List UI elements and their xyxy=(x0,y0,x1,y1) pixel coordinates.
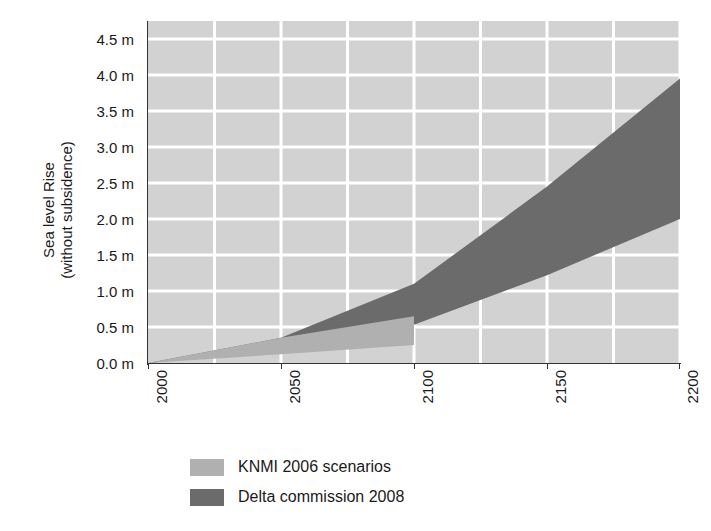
x-axis-tick-label: 2200 xyxy=(685,370,700,403)
y-axis-tick-label: 0.0 m xyxy=(96,356,134,371)
legend-item-label: Delta commission 2008 xyxy=(238,488,404,506)
x-axis-tick-mark xyxy=(414,364,415,369)
x-axis-tick-labels: 20002050210021502200 xyxy=(148,364,680,434)
y-axis-tick-label: 0.5 m xyxy=(96,320,134,335)
y-axis-tick-label: 1.0 m xyxy=(96,284,134,299)
x-axis-tick-mark xyxy=(547,364,548,369)
x-axis-tick-mark xyxy=(148,364,149,369)
sea-level-rise-chart: Sea level Rise (without subsidence) 0.0 … xyxy=(0,0,711,531)
x-axis-tick-label: 2000 xyxy=(154,370,169,403)
y-axis-tick-label: 3.0 m xyxy=(96,140,134,155)
y-axis-spine xyxy=(147,21,148,365)
legend-color-swatch xyxy=(190,459,224,476)
x-axis-tick-mark xyxy=(281,364,282,369)
y-axis-tick-labels: 0.0 m0.5 m1.0 m1.5 m2.0 m2.5 m3.0 m3.5 m… xyxy=(60,21,140,363)
y-axis-tick-label: 1.5 m xyxy=(96,248,134,263)
y-axis-tick-label: 3.5 m xyxy=(96,104,134,119)
y-axis-tick-label: 2.0 m xyxy=(96,212,134,227)
plot-area xyxy=(148,21,680,363)
chart-legend: KNMI 2006 scenariosDelta commission 2008 xyxy=(190,452,590,512)
legend-color-swatch xyxy=(190,489,224,506)
y-axis-title-line1: Sea level Rise xyxy=(40,60,58,360)
y-axis-tick-label: 2.5 m xyxy=(96,176,134,191)
plot-canvas xyxy=(148,21,680,363)
x-axis-tick-mark xyxy=(679,364,680,369)
x-axis-tick-label: 2050 xyxy=(287,370,302,403)
legend-item: Delta commission 2008 xyxy=(190,482,590,512)
x-axis-tick-label: 2100 xyxy=(420,370,435,403)
legend-item-label: KNMI 2006 scenarios xyxy=(238,458,391,476)
y-axis-tick-label: 4.5 m xyxy=(96,32,134,47)
legend-item: KNMI 2006 scenarios xyxy=(190,452,590,482)
y-axis-tick-label: 4.0 m xyxy=(96,68,134,83)
x-axis-tick-label: 2150 xyxy=(553,370,568,403)
